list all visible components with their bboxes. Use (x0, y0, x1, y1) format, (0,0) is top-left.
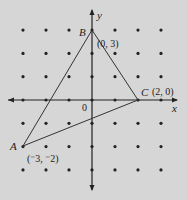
grid-dot (44, 168, 47, 171)
grid-dot (136, 75, 139, 78)
grid-dot (44, 122, 47, 125)
point-a-name: A (9, 140, 17, 152)
triangle-abc (23, 30, 138, 146)
point-a-coords: (⁻3, ⁻2) (27, 153, 59, 165)
grid-dot (67, 145, 70, 148)
grid-dot (113, 168, 116, 171)
grid-dot (136, 168, 139, 171)
grid-dot (113, 52, 116, 55)
grid-dot (44, 145, 47, 148)
y-axis-label: y (96, 9, 102, 21)
grid-dot (44, 52, 47, 55)
y-axis-up-arrow-icon (90, 9, 95, 15)
grid-dot (67, 168, 70, 171)
y-axis-down-arrow-icon (90, 185, 95, 191)
grid-dot (21, 168, 24, 171)
grid-dot (113, 29, 116, 32)
point-b-coords: (0, 3) (97, 38, 119, 50)
point-b-name: B (79, 26, 86, 38)
grid-dot (44, 75, 47, 78)
grid-dot (44, 29, 47, 32)
grid-dot (136, 52, 139, 55)
grid-dot (159, 168, 162, 171)
grid-dot (159, 29, 162, 32)
grid-dot (159, 122, 162, 125)
grid-dot (67, 52, 70, 55)
grid-dot (21, 29, 24, 32)
x-axis-label: x (171, 102, 177, 114)
grid-dot (67, 122, 70, 125)
grid-dot (67, 75, 70, 78)
origin-label: 0 (82, 102, 87, 113)
grid-dot (67, 29, 70, 32)
grid-dot (159, 52, 162, 55)
x-axis-left-arrow-icon (8, 98, 14, 103)
grid-dot (159, 75, 162, 78)
grid-dot (113, 122, 116, 125)
grid-dot (21, 122, 24, 125)
point-c-coords: (2, 0) (152, 86, 174, 98)
grid-dot (136, 122, 139, 125)
grid-dot (136, 29, 139, 32)
point-c-name: C (141, 86, 149, 98)
grid-dot (21, 52, 24, 55)
grid-dot (21, 75, 24, 78)
grid-dot (136, 145, 139, 148)
coordinate-plane: y x 0 B (0, 3) C (2, 0) A (⁻3, ⁻2) (0, 0, 187, 200)
grid-dot (113, 145, 116, 148)
grid-dot (159, 145, 162, 148)
grid-dot (113, 75, 116, 78)
